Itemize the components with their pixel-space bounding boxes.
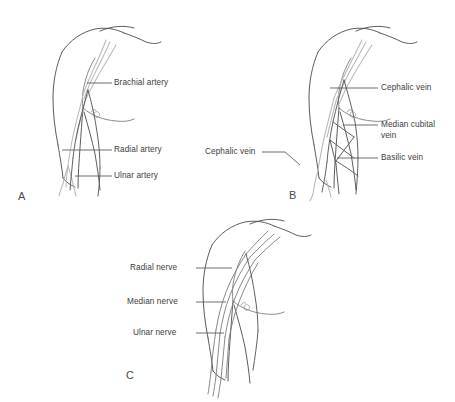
panel-b-leader-lines <box>262 88 378 165</box>
anatomy-figure: Brachial artery Radial artery Ulnar arte… <box>0 0 455 402</box>
panel-letter-c: C <box>126 369 134 381</box>
label-cephalic-vein-lower: Cephalic vein <box>205 147 255 158</box>
panel-c-drawing <box>203 219 311 398</box>
label-radial-artery: Radial artery <box>114 145 162 156</box>
panel-letter-b: B <box>289 189 297 201</box>
label-cephalic-vein-upper: Cephalic vein <box>381 83 431 94</box>
label-ulnar-nerve: Ulnar nerve <box>133 328 176 339</box>
label-median-cubital-vein-line2: vein <box>381 131 396 142</box>
label-brachial-artery: Brachial artery <box>114 78 168 89</box>
label-basilic-vein: Basilic vein <box>381 153 423 164</box>
label-median-nerve: Median nerve <box>127 297 178 308</box>
label-radial-nerve: Radial nerve <box>130 263 177 274</box>
label-ulnar-artery: Ulnar artery <box>114 171 158 182</box>
panel-c-leader-lines <box>196 268 232 333</box>
panel-b-drawing <box>309 26 417 201</box>
panel-letter-a: A <box>18 190 26 202</box>
label-median-cubital-vein-line1: Median cubital <box>381 120 435 131</box>
leader-cephalic-vein-lower <box>262 152 300 165</box>
figure-line-art <box>0 0 455 402</box>
